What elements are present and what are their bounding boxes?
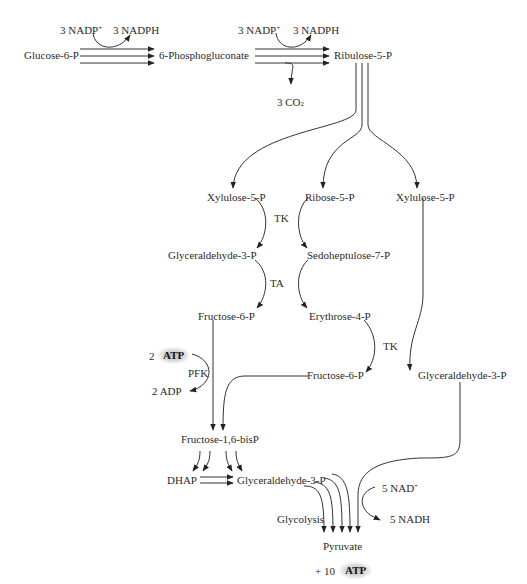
glyceraldehyde-3-p-node: Glyceraldehyde-3-P [237, 474, 326, 487]
dhap-node: DHAP [167, 474, 197, 487]
nad-label: 5 NAD+ [382, 482, 418, 495]
fructose-6-p-left-node: Fructose-6-P [198, 310, 255, 323]
pyruvate-node: Pyruvate [323, 540, 362, 553]
adp-label: 2 ADP [152, 385, 182, 398]
atp-input-badge: ATP [157, 347, 190, 364]
glycolysis-label: Glycolysis [277, 513, 324, 526]
xylulose-5-p-right-node: Xylulose-5-P [396, 191, 455, 204]
nadp-label-2: 3 NADP+ [238, 24, 280, 37]
6-phosphogluconate-node: 6-Phosphogluconate [159, 49, 249, 62]
tk-enzyme-label-2: TK [383, 340, 398, 353]
nadph-label-1: 3 NADPH [113, 24, 159, 37]
ribulose-5-p-node: Ribulose-5-P [334, 49, 392, 62]
glyceraldehyde-3-p-left-node: Glyceraldehyde-3-P [168, 249, 257, 262]
atp-yield-badge: ATP [339, 562, 372, 579]
nadp-label-1: 3 NADP+ [60, 24, 102, 37]
pfk-enzyme-label: PFK [188, 367, 208, 380]
ribose-5-p-node: Ribose-5-P [305, 191, 355, 204]
ta-enzyme-label: TA [270, 277, 284, 290]
glyceraldehyde-3-p-right-node: Glyceraldehyde-3-P [418, 369, 507, 382]
atp-yield-prefix: + 10 [315, 565, 335, 578]
glucose-6-p-node: Glucose-6-P [24, 49, 79, 62]
nadh-label: 5 NADH [390, 513, 430, 526]
tk-enzyme-label-1: TK [274, 212, 289, 225]
pathway-arrows [0, 0, 527, 584]
fructose-6-p-mid-node: Fructose-6-P [307, 369, 364, 382]
atp-count-label: 2 [149, 350, 155, 363]
co2-label: 3 CO2 [277, 96, 304, 109]
sedoheptulose-7-p-node: Sedoheptulose-7-P [307, 249, 390, 262]
erythrose-4-p-node: Erythrose-4-P [309, 310, 371, 323]
nadph-label-2: 3 NADPH [293, 24, 339, 37]
fructose-1-6-bisp-node: Fructose-1,6-bisP [181, 433, 259, 446]
xylulose-5-p-left-node: Xylulose-5-P [207, 191, 266, 204]
